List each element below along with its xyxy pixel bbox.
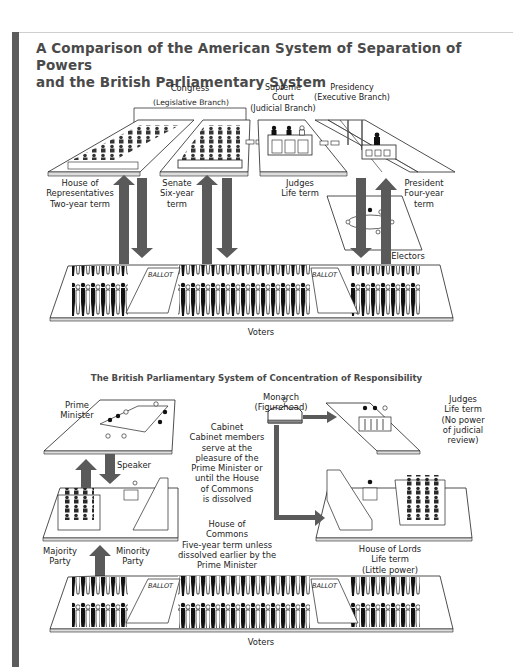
- voters-platform-us: [50, 265, 453, 321]
- voters-label-uk: Voters: [236, 637, 286, 647]
- senate-label: Senate Six-year term: [152, 178, 202, 209]
- british-court-platform: [326, 403, 420, 454]
- presidency-label: Presidency (Executive Branch): [314, 83, 390, 104]
- house-of-representatives-label: House of Representatives Two-year term: [44, 178, 116, 209]
- ballot-label-us-2: BALLOT: [312, 270, 337, 280]
- house-of-commons-chamber: [43, 478, 178, 541]
- electors-label: Electors: [388, 251, 428, 261]
- majority-party-label: Majority Party: [38, 546, 82, 567]
- uk-judges-label: Judges Life term (No power of judicial r…: [435, 394, 491, 445]
- cabinet-label: Cabinet Cabinet members serve at the ple…: [184, 422, 270, 504]
- supreme-court-label: Supreme Court (Judicial Branch): [248, 83, 318, 114]
- house-of-lords-label: House of Lords Life term (Little power): [350, 544, 430, 575]
- voters-platform-uk: [50, 576, 453, 632]
- house-of-commons-label: House of Commons Five-year term unless d…: [172, 519, 282, 570]
- minority-party-label: Minority Party: [110, 546, 156, 567]
- voters-label-us: Voters: [236, 327, 286, 337]
- prime-minister-label: Prime Minister: [52, 400, 102, 421]
- monarch-label: Monarch (Figurehead): [248, 392, 314, 413]
- us-judges-label: Judges Life term: [270, 178, 330, 199]
- ballot-label-uk-1: BALLOT: [148, 581, 173, 591]
- house-of-lords-chamber: [316, 470, 472, 541]
- ballot-label-us-1: BALLOT: [148, 270, 173, 280]
- president-label: President Four-year term: [396, 178, 452, 209]
- ballot-label-uk-2: BALLOT: [312, 581, 337, 591]
- speaker-label: Speaker: [114, 460, 154, 470]
- legislative-branch-label: (Legislative Branch): [138, 98, 244, 108]
- british-subtitle: The British Parliamentary System of Conc…: [0, 373, 513, 383]
- congress-label: Congress: [160, 83, 220, 93]
